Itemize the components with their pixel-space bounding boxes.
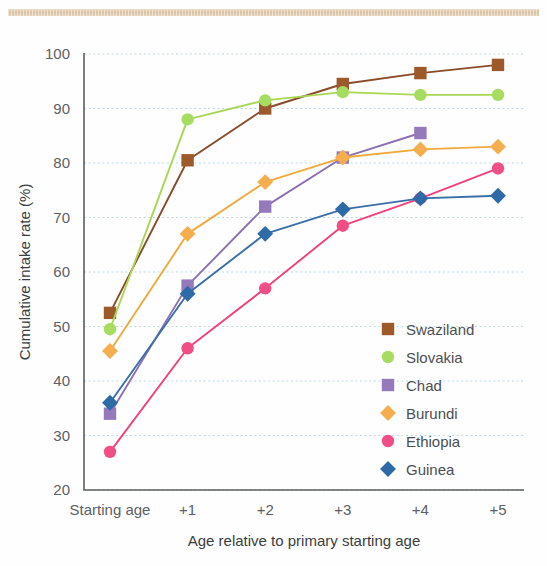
data-point-marker [382,379,394,391]
gridlines [84,54,524,490]
x-tick-label: +3 [334,501,351,518]
data-point-marker [414,67,426,79]
y-tick-label: 100 [45,45,70,62]
legend-label: Burundi [406,405,458,422]
y-tick-label: 40 [53,372,70,389]
legend-item-slovakia[interactable]: Slovakia [382,349,464,366]
data-point-marker [492,162,504,174]
legend-label: Swaziland [406,321,474,338]
data-point-marker [257,226,273,242]
data-point-marker [259,94,271,106]
line-chart: 2030405060708090100 Starting age+1+2+3+4… [0,24,547,566]
x-axis-tick-labels: Starting age+1+2+3+4+5 [70,501,507,518]
chart-figure: 2030405060708090100 Starting age+1+2+3+4… [0,24,547,566]
data-point-marker [259,282,271,294]
data-point-marker [412,190,428,206]
y-tick-label: 80 [53,154,70,171]
data-point-marker [490,188,506,204]
data-point-marker [380,405,396,421]
data-point-marker [102,343,118,359]
y-tick-label: 60 [53,263,70,280]
data-point-marker [492,89,504,101]
y-tick-label: 70 [53,209,70,226]
decorative-top-band [8,9,539,16]
legend-item-burundi[interactable]: Burundi [380,405,458,422]
x-tick-label: +1 [179,501,196,518]
x-axis-title: Age relative to primary starting age [188,532,421,549]
legend-item-chad[interactable]: Chad [382,377,442,394]
data-point-marker [412,141,428,157]
y-axis-title: Cumulative intake rate (%) [16,184,33,361]
series-line [110,92,498,329]
y-tick-label: 20 [53,481,70,498]
series-chad [104,127,427,420]
legend-item-guinea[interactable]: Guinea [380,461,455,478]
x-tick-label: Starting age [70,501,151,518]
x-tick-label: +5 [489,501,506,518]
series-line [110,65,498,313]
y-tick-label: 90 [53,100,70,117]
y-axis-tick-labels: 2030405060708090100 [45,45,70,498]
x-tick-label: +2 [257,501,274,518]
legend-label: Guinea [406,461,455,478]
data-point-marker [382,435,394,447]
data-point-marker [180,226,196,242]
legend-item-swaziland[interactable]: Swaziland [382,321,475,338]
x-tick-label: +4 [412,501,429,518]
data-point-marker [104,323,116,335]
data-point-marker [382,323,394,335]
data-point-marker [259,200,271,212]
series-line [110,196,498,403]
data-point-marker [490,139,506,155]
data-point-marker [257,174,273,190]
data-point-marker [181,342,193,354]
data-point-marker [414,127,426,139]
y-tick-label: 30 [53,427,70,444]
data-point-marker [380,461,396,477]
figure-page: 2030405060708090100 Starting age+1+2+3+4… [0,0,547,566]
data-point-marker [414,89,426,101]
data-point-marker [181,113,193,125]
legend-label: Ethiopia [406,433,461,450]
legend-label: Chad [406,377,442,394]
data-point-marker [382,351,394,363]
data-point-marker [492,59,504,71]
chart-legend: SwazilandSlovakiaChadBurundiEthiopiaGuin… [380,321,474,478]
data-point-marker [104,446,116,458]
data-point-marker [337,219,349,231]
legend-label: Slovakia [406,349,463,366]
data-point-marker [181,154,193,166]
data-point-marker [337,86,349,98]
series-layer [102,59,506,458]
y-tick-label: 50 [53,318,70,335]
series-slovakia [104,86,504,335]
data-point-marker [335,201,351,217]
series-guinea [102,188,506,411]
